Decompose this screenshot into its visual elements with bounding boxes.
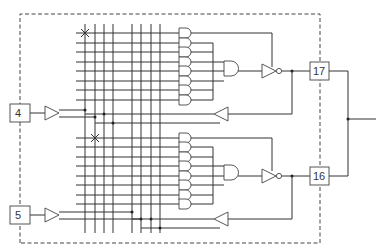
pin-16-box: 16 [310, 167, 329, 185]
lower-feedback-buffer [214, 212, 228, 226]
upper-sum-gate [224, 61, 239, 76]
pin-17-label: 17 [313, 65, 325, 77]
pin-5-label: 5 [15, 209, 21, 221]
pin-5-input-buffer [45, 208, 59, 222]
pin-4-label: 4 [15, 107, 21, 119]
lower-sum-gate [224, 165, 239, 180]
array-columns [85, 24, 160, 233]
pin-4-box: 4 [10, 104, 30, 122]
upper-and-gate-stack [179, 28, 191, 105]
lower-product-lines [76, 138, 180, 204]
lower-and-gate-stack [179, 133, 191, 209]
pin-16-label: 16 [313, 170, 325, 182]
lower-output-buffer [262, 169, 282, 183]
pin-5-box: 5 [10, 206, 30, 224]
pin-17-box: 17 [310, 62, 329, 80]
logic-diagram: 4 17 [0, 0, 387, 252]
device-boundary [20, 14, 320, 243]
upper-product-lines [76, 33, 180, 100]
upper-feedback-buffer [214, 107, 228, 121]
pin-4-input-buffer [45, 106, 59, 120]
